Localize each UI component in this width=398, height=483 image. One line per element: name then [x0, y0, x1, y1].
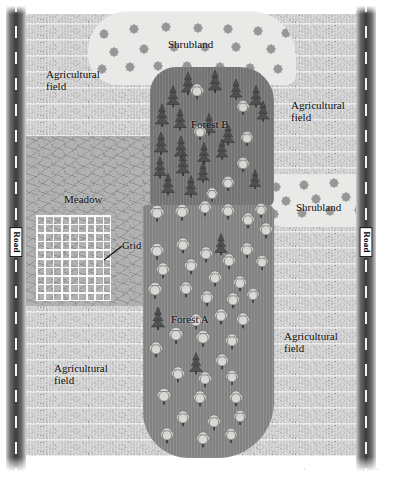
- road-right-label: Road: [360, 227, 373, 257]
- forest-a-tree-symbols: [0, 0, 398, 483]
- road-left-label: Road: [10, 227, 23, 257]
- scale-bar: [304, 468, 378, 476]
- habitat-map: Road Road Agricultural field Agricultura…: [0, 0, 398, 483]
- road-right: Road: [356, 0, 376, 483]
- road-left: Road: [6, 0, 26, 483]
